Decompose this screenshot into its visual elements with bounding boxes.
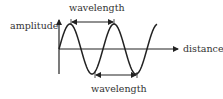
wave-diagram: wavelength amplitude distance wavelength (0, 0, 223, 99)
top-wavelength-label: wavelength (69, 3, 125, 13)
amplitude-label: amplitude (10, 21, 58, 31)
bottom-wavelength-label: wavelength (91, 84, 147, 94)
distance-label: distance (183, 44, 223, 54)
